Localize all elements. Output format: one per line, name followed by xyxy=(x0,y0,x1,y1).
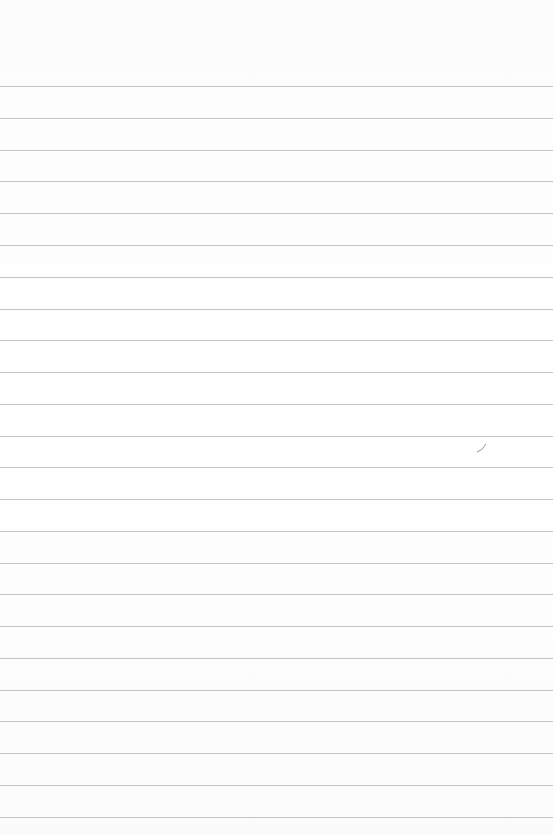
ruled-line xyxy=(0,150,553,151)
ruled-line xyxy=(0,340,553,341)
ruled-line xyxy=(0,277,553,278)
pencil-mark-icon xyxy=(476,442,488,454)
ruled-line xyxy=(0,658,553,659)
ruled-line xyxy=(0,181,553,182)
ruled-line xyxy=(0,213,553,214)
ruled-line xyxy=(0,626,553,627)
ruled-line xyxy=(0,594,553,595)
ruled-line xyxy=(0,531,553,532)
ruled-line xyxy=(0,753,553,754)
lined-paper-sheet xyxy=(0,0,553,835)
ruled-line xyxy=(0,372,553,373)
ruled-line xyxy=(0,245,553,246)
ruled-line xyxy=(0,785,553,786)
ruled-line xyxy=(0,86,553,87)
ruled-line xyxy=(0,404,553,405)
ruled-line xyxy=(0,499,553,500)
ruled-line xyxy=(0,817,553,818)
ruled-line xyxy=(0,309,553,310)
ruled-line xyxy=(0,563,553,564)
ruled-line xyxy=(0,721,553,722)
ruled-line xyxy=(0,436,553,437)
ruled-line xyxy=(0,118,553,119)
ruled-line xyxy=(0,690,553,691)
ruled-line xyxy=(0,467,553,468)
